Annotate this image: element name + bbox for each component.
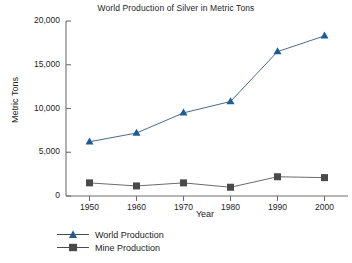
legend-item-world-production[interactable]: World Production [56, 228, 164, 241]
x-tick-label: 1950 [67, 202, 113, 212]
y-tick-label: 20,000 [10, 15, 60, 25]
chart-legend: World Production Mine Production [56, 228, 164, 254]
data-series-group [86, 32, 329, 191]
x-tick-label: 1980 [208, 202, 254, 212]
x-tick-label: 2000 [302, 202, 348, 212]
data-point-marker [274, 173, 281, 180]
data-point-marker [321, 32, 329, 39]
data-point-marker [321, 174, 328, 181]
x-tick-label: 1970 [161, 202, 207, 212]
x-tick-label: 1990 [255, 202, 301, 212]
x-tick-label: 1960 [114, 202, 160, 212]
series-line-world-production [90, 36, 325, 142]
legend-label-world-production: World Production [95, 230, 164, 240]
y-tick-label: 10,000 [10, 103, 60, 113]
plot-area [0, 0, 352, 263]
data-point-marker [86, 179, 93, 186]
legend-label-mine-production: Mine Production [95, 243, 160, 253]
y-tick-label: 0 [10, 190, 60, 200]
y-tick-label: 15,000 [10, 59, 60, 69]
axis-lines [66, 21, 348, 201]
chart-figure: World Production of Silver in Metric Ton… [0, 0, 352, 263]
data-point-marker [227, 184, 234, 191]
legend-item-mine-production[interactable]: Mine Production [56, 241, 164, 254]
data-point-marker [180, 179, 187, 186]
data-point-marker [133, 182, 140, 189]
legend-key-world-production [56, 228, 90, 241]
series-line-mine-production [90, 177, 325, 188]
y-tick-label: 5,000 [10, 146, 60, 156]
legend-key-mine-production [56, 241, 90, 254]
